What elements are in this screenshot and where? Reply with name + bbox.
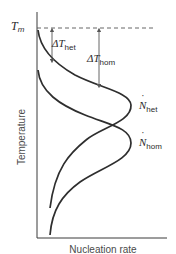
melting-point-label: Tm xyxy=(11,20,24,32)
hom-nucleation-curve xyxy=(38,70,131,235)
tm-subscript: m xyxy=(18,25,25,34)
n-hom-label: Nhom xyxy=(139,137,162,148)
nucleation-diagram: Tm ΔThet ΔThom Nhet Nhom Temperature Nuc… xyxy=(0,0,176,254)
n-hom-subscript: hom xyxy=(146,142,162,151)
y-axis-label: Temperature xyxy=(17,107,27,167)
delta-t-hom-subscript: hom xyxy=(100,58,116,67)
tm-symbol: T xyxy=(11,19,18,33)
delta-t-het-subscript: het xyxy=(65,43,76,52)
n-het-label: Nhet xyxy=(139,100,157,111)
delta-t-het-symbol: ΔT xyxy=(52,37,65,49)
delta-t-het-label: ΔThet xyxy=(52,38,76,49)
n-het-subscript: het xyxy=(146,105,157,114)
x-axis-label: Nucleation rate xyxy=(40,245,166,254)
delta-t-hom-symbol: ΔT xyxy=(87,52,100,64)
delta-t-hom-label: ΔThom xyxy=(87,53,115,64)
